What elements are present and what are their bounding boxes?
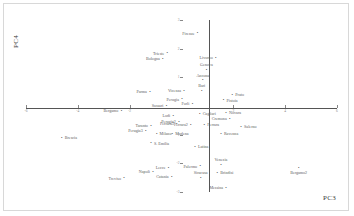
point-label: Sassari <box>152 104 164 108</box>
point-label: Salerno <box>244 125 257 129</box>
point-marker: • <box>150 125 153 128</box>
point-label: Bologna <box>146 57 160 61</box>
point-marker: • <box>220 133 223 136</box>
point-marker: • <box>216 172 219 175</box>
point-marker: • <box>205 69 208 72</box>
point-label: Ferrara3 <box>160 122 174 126</box>
point-label: Latina <box>198 145 208 149</box>
point-label: Ferrara <box>207 123 219 127</box>
point-label: Brindisi <box>220 171 233 175</box>
point-marker: • <box>198 113 201 116</box>
point-label: Bari <box>198 84 205 88</box>
point-marker: • <box>120 110 123 113</box>
point-label: Milano <box>160 132 172 136</box>
point-label: Catania <box>156 175 169 179</box>
point-label: Trieste <box>153 52 164 56</box>
point-label: Brescia <box>65 136 77 140</box>
point-marker: • <box>123 177 126 180</box>
point-marker: • <box>199 165 202 168</box>
point-marker: • <box>240 126 243 129</box>
point-marker: • <box>167 167 170 170</box>
point-marker: • <box>60 137 63 140</box>
point-marker: • <box>231 94 234 97</box>
x-axis-title: PC3 <box>323 194 336 202</box>
point-marker: • <box>228 118 231 121</box>
point-marker: • <box>297 167 300 170</box>
point-marker: • <box>155 133 158 136</box>
point-marker: • <box>189 124 192 127</box>
point-marker: • <box>152 171 155 174</box>
point-label: Pistoia <box>226 99 237 103</box>
point-label: Firenze <box>182 32 194 36</box>
point-marker: • <box>144 130 147 133</box>
point-label: Napoli <box>139 170 150 174</box>
point-marker: • <box>165 105 168 108</box>
point-marker: • <box>220 164 223 167</box>
plot-frame: -6-4-2246-3-2-1123 •Firenze•Trieste•Bolo… <box>3 3 349 211</box>
y-axis-title: PC4 <box>12 35 20 48</box>
point-label: Cremona <box>212 117 227 121</box>
point-marker: • <box>222 99 225 102</box>
point-label: Parma <box>136 90 146 94</box>
point-label: Genova <box>200 63 213 67</box>
point-label: Lodi <box>162 114 170 118</box>
point-marker: • <box>172 115 175 118</box>
point-label: Livorno <box>200 56 213 60</box>
point-label: Treviso <box>109 177 121 181</box>
point-label: Ancona <box>196 74 209 78</box>
point-label: Vicenza <box>168 89 181 93</box>
point-label: Forli <box>181 102 189 106</box>
point-marker: • <box>225 112 228 115</box>
point-label: Palermo <box>184 165 198 169</box>
point-label: Ferrara2 <box>174 123 188 127</box>
point-marker: • <box>166 52 169 55</box>
point-marker: • <box>161 58 164 61</box>
point-label: Venezia <box>214 158 227 162</box>
point-marker: • <box>183 90 186 93</box>
point-marker: • <box>148 91 151 94</box>
point-label: S. Emilia <box>154 142 169 146</box>
point-label: Ravenna <box>224 132 238 136</box>
point-label: Messina <box>209 186 223 190</box>
point-marker: • <box>194 146 197 149</box>
point-marker: • <box>203 124 206 127</box>
point-label: Novara <box>229 111 241 115</box>
point-marker: • <box>225 187 228 190</box>
scatter-points-layer: •Firenze•Trieste•Bologna•Livorno•Genova•… <box>4 4 350 212</box>
point-marker: • <box>191 103 194 106</box>
point-marker: • <box>196 32 199 35</box>
point-label: Prato <box>235 93 244 97</box>
point-label: Perugia3 <box>128 129 143 133</box>
point-label: Lecce <box>156 166 166 170</box>
point-label: Bergamo2 <box>290 171 307 175</box>
point-label: Bergamo <box>103 109 118 113</box>
point-marker: • <box>200 90 203 93</box>
point-label: Siracusa <box>194 171 208 175</box>
point-marker: • <box>214 57 217 60</box>
point-marker: • <box>201 79 204 82</box>
point-marker: • <box>170 176 173 179</box>
point-marker: • <box>199 177 202 180</box>
point-label: Perugia <box>167 98 180 102</box>
point-label: Modena <box>175 132 188 136</box>
point-marker: • <box>150 142 153 145</box>
